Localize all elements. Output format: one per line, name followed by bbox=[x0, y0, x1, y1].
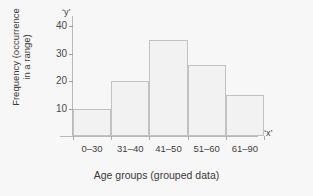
x-tick-mark bbox=[73, 136, 74, 140]
y-tick-label: 40 bbox=[45, 21, 67, 31]
histogram-bar bbox=[73, 109, 111, 136]
histogram-bar bbox=[149, 40, 187, 136]
plot-area bbox=[73, 18, 264, 136]
y-tick-mark bbox=[69, 54, 73, 55]
x-tick-label: 31–40 bbox=[111, 143, 149, 154]
y-tick-label: 10 bbox=[45, 104, 67, 114]
x-axis-marker-label: ‘x’ bbox=[264, 128, 273, 138]
y-axis-title: Frequency (occurrence in a range) bbox=[10, 0, 32, 116]
y-axis-title-line-2: in a range) bbox=[21, 0, 32, 116]
x-tick-label: 0–30 bbox=[73, 143, 111, 154]
y-tick-mark bbox=[69, 26, 73, 27]
x-axis-title: Age groups (grouped data) bbox=[0, 169, 313, 181]
x-tick-label: 61–90 bbox=[226, 143, 264, 154]
x-axis-line bbox=[60, 136, 258, 137]
x-tick-mark bbox=[226, 136, 227, 140]
x-tick-label: 51–60 bbox=[188, 143, 226, 154]
x-tick-label: 41–50 bbox=[149, 143, 187, 154]
x-tick-mark bbox=[111, 136, 112, 140]
x-tick-mark bbox=[188, 136, 189, 140]
y-axis-title-line-1: Frequency (occurrence bbox=[10, 0, 21, 116]
y-tick-mark bbox=[69, 81, 73, 82]
histogram-bar bbox=[111, 81, 149, 136]
histogram-bar bbox=[188, 65, 226, 136]
x-tick-mark bbox=[149, 136, 150, 140]
histogram-bar bbox=[226, 95, 264, 136]
y-tick-label: 20 bbox=[45, 76, 67, 86]
x-tick-mark bbox=[264, 136, 265, 140]
y-tick-label: 30 bbox=[45, 49, 67, 59]
histogram-figure: ‘y’ ‘x’ Frequency (occurrence in a range… bbox=[0, 0, 313, 196]
y-axis-marker-label: ‘y’ bbox=[62, 7, 71, 17]
y-tick-mark bbox=[69, 109, 73, 110]
